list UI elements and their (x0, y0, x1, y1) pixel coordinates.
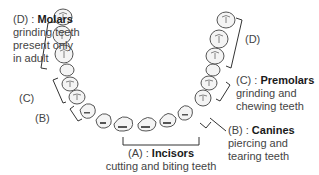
right-premolars (195, 76, 217, 106)
premolars-desc-1: grinding and (236, 87, 297, 99)
tag-left-c: (C) (19, 92, 34, 104)
molars-label: (D) : Molars grinding teeth present only… (13, 13, 80, 65)
right-molars (206, 12, 235, 76)
bracket-incisors (123, 137, 199, 145)
molars-name: Molars (37, 13, 72, 25)
incisors-desc-1: cutting and biting teeth (106, 160, 217, 172)
incisors-code: (A) : (128, 147, 152, 159)
bracket-left-canine (70, 106, 82, 121)
left-canine (80, 104, 95, 119)
incisors (96, 113, 176, 131)
premolars-name: Premolars (260, 74, 314, 86)
molars-desc-3: in adult (13, 52, 48, 64)
right-canine (178, 106, 192, 120)
incisors-name: Incisors (152, 147, 194, 159)
bracket-right-canine (200, 122, 211, 128)
premolars-code: (C) : (236, 74, 260, 86)
molars-desc-2: present only (13, 39, 73, 51)
pointer-right-canine (210, 118, 226, 131)
molars-code: (D) : (13, 13, 37, 25)
premolars-label: (C) : Premolars grinding and chewing tee… (236, 74, 314, 113)
canines-label: (B) : Canines piercing and tearing teeth (228, 124, 295, 163)
canines-desc-2: tearing teeth (228, 150, 289, 162)
canines-name: Canines (252, 124, 295, 136)
canines-code: (B) : (228, 124, 252, 136)
bracket-right-premolars (216, 82, 230, 101)
left-premolars (62, 77, 85, 104)
tag-right-d: (D) (245, 33, 260, 45)
premolars-desc-2: chewing teeth (236, 100, 304, 112)
tag-left-b: (B) (35, 112, 50, 124)
canines-desc-1: piercing and (228, 137, 288, 149)
incisors-label: (A) : Incisors cutting and biting teeth (100, 147, 222, 173)
molars-desc-1: grinding teeth (13, 26, 80, 38)
